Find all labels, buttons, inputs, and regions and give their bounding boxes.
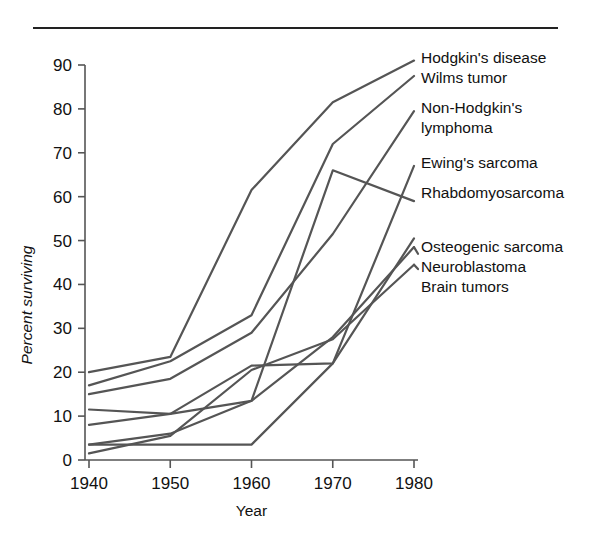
series-line-neuroblastoma [89, 247, 414, 445]
figure-container: 010203040506070809019401950196019701980P… [0, 0, 591, 553]
series-line-ewing-s-sarcoma [89, 166, 414, 445]
y-tick-label: 80 [53, 100, 72, 119]
x-tick-label: 1940 [70, 474, 108, 493]
series-label: Ewing's sarcoma [421, 154, 538, 171]
x-tick-label: 1970 [314, 474, 352, 493]
x-tick-label: 1980 [395, 474, 433, 493]
y-tick-label: 90 [53, 56, 72, 75]
y-tick-label: 60 [53, 188, 72, 207]
series-label: Wilms tumor [421, 69, 507, 86]
y-tick-label: 10 [53, 407, 72, 426]
series-label: lymphoma [421, 119, 493, 136]
x-tick-label: 1950 [151, 474, 189, 493]
series-leader [414, 247, 418, 254]
series-line-wilms-tumor [89, 76, 414, 385]
series-line-non-hodgkin-s-lymphoma [89, 111, 414, 394]
y-tick-label: 0 [63, 451, 72, 470]
y-tick-label: 70 [53, 144, 72, 163]
line-chart: 010203040506070809019401950196019701980P… [0, 0, 591, 553]
series-line-brain-tumors [89, 265, 414, 454]
y-tick-label: 50 [53, 232, 72, 251]
series-label: Osteogenic sarcoma [421, 238, 564, 255]
series-label: Brain tumors [421, 278, 509, 295]
y-tick-label: 40 [53, 275, 72, 294]
x-axis-title: Year [236, 502, 267, 519]
y-tick-label: 20 [53, 363, 72, 382]
series-label: Hodgkin's disease [421, 49, 546, 66]
y-tick-label: 30 [53, 319, 72, 338]
series-leader [414, 265, 418, 269]
x-tick-label: 1960 [233, 474, 271, 493]
series-line-rhabdomyosarcoma [89, 170, 414, 414]
series-label: Neuroblastoma [421, 258, 526, 275]
y-axis-title: Percent surviving [18, 245, 35, 364]
series-line-hodgkin-s-disease [89, 61, 414, 373]
series-label: Rhabdomyosarcoma [421, 184, 564, 201]
series-label: Non-Hodgkin's [421, 99, 522, 116]
